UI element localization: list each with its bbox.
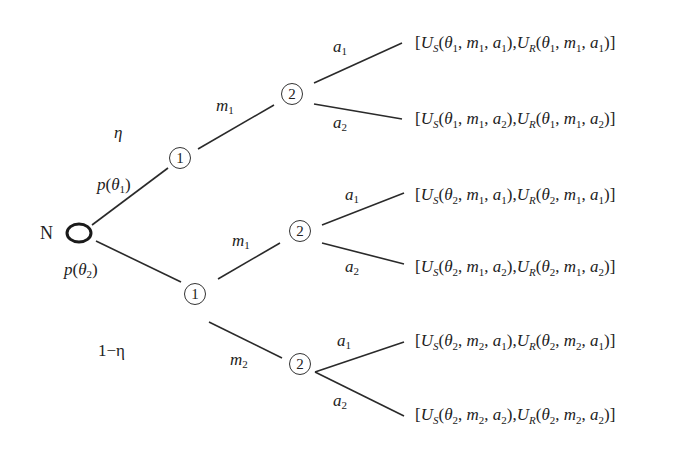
action-label-r3-a1: a1 (337, 332, 351, 351)
sender-node-theta1: 1 (169, 147, 191, 169)
prob-theta2-label: p(θ2) (64, 261, 98, 280)
receiver-node-2: 2 (289, 220, 311, 242)
message-label-m1-upper: m1 (216, 97, 234, 116)
receiver-node-1: 2 (281, 83, 303, 105)
payoff-theta2-m2-a1: [US(θ2, m2, a1),UR(θ2, m2, a1)] (415, 332, 615, 352)
payoff-theta1-m1-a1: [US(θ1, m1, a1),UR(θ1, m1, a1)] (415, 34, 615, 54)
action-label-r3-a2: a2 (333, 392, 347, 411)
action-label-r1-a1: a1 (333, 38, 347, 57)
action-label-r2-a1: a1 (345, 186, 359, 205)
receiver-node-3: 2 (289, 353, 311, 375)
nature-node-label: N (40, 224, 53, 242)
payoff-theta1-m1-a2: [US(θ1, m1, a2),UR(θ1, m1, a2)] (415, 110, 615, 130)
payoff-theta2-m2-a2: [US(θ2, m2, a2),UR(θ2, m2, a2)] (415, 406, 615, 426)
action-label-r2-a2: a2 (345, 258, 359, 277)
payoff-theta2-m1-a2: [US(θ2, m1, a2),UR(θ2, m1, a2)] (415, 258, 615, 278)
sender-node-theta2: 1 (184, 283, 206, 305)
eta-label: η (114, 124, 122, 141)
message-label-m2: m2 (230, 351, 248, 370)
prob-theta1-label: p(θθ11) (97, 176, 131, 195)
nature-node-circle (67, 224, 91, 242)
tree-edges (0, 0, 694, 459)
one-minus-eta-label: 1−η (98, 342, 125, 359)
payoff-theta2-m1-a1: [US(θ2, m1, a1),UR(θ2, m1, a1)] (415, 186, 615, 206)
message-label-m1-lower: m1 (232, 232, 250, 251)
action-label-r1-a2: a2 (333, 114, 347, 133)
